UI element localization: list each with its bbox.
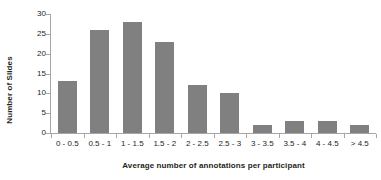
y-axis-tick-mark <box>46 113 50 114</box>
y-axis-tick-label: 20 <box>26 50 46 58</box>
x-axis-tick-mark <box>84 134 85 138</box>
y-axis-tick-mark <box>46 133 50 134</box>
y-axis-tick-mark <box>46 74 50 75</box>
y-axis-tick-label: 10 <box>26 89 46 97</box>
bar-chart: Number of Slides 051015202530 0 - 0.50.5… <box>0 0 381 180</box>
x-axis-tick-label: 2 - 2.5 <box>181 139 214 149</box>
x-axis-tick-mark <box>149 134 150 138</box>
bar <box>123 22 142 133</box>
y-axis-tick-mark <box>46 93 50 94</box>
x-axis-tick-label: 3.5 - 4 <box>279 139 312 149</box>
x-axis-tick-mark <box>311 134 312 138</box>
x-axis-tick-label: 0.5 - 1 <box>84 139 117 149</box>
x-axis-tick-label: 0 - 0.5 <box>51 139 84 149</box>
x-axis-title: Average number of annotations per partic… <box>51 160 376 171</box>
plot-area <box>51 14 376 133</box>
y-axis-tick-label: 25 <box>26 30 46 38</box>
x-axis-tick-mark <box>376 134 377 138</box>
bar <box>58 81 77 133</box>
bar <box>253 125 272 133</box>
y-axis-tick-label: 0 <box>26 129 46 137</box>
y-axis-tick-mark <box>46 54 50 55</box>
x-axis-tick-label: > 4.5 <box>344 139 377 149</box>
bar <box>220 93 239 133</box>
x-axis-tick-mark <box>214 134 215 138</box>
y-axis-tick-mark <box>46 34 50 35</box>
bar <box>350 125 369 133</box>
bar <box>318 121 337 133</box>
bar <box>285 121 304 133</box>
x-axis-tick-label: 1.5 - 2 <box>149 139 182 149</box>
y-axis-title: Number of Slides <box>3 0 17 180</box>
x-axis-tick-label: 1 - 1.5 <box>116 139 149 149</box>
x-axis-tick-mark <box>246 134 247 138</box>
y-axis-tick-label: 15 <box>26 70 46 78</box>
bar <box>90 30 109 133</box>
y-axis-tick-labels: 051015202530 <box>22 0 46 180</box>
x-axis-tick-label: 4 - 4.5 <box>311 139 344 149</box>
x-axis-tick-label: 2.5 - 3 <box>214 139 247 149</box>
y-axis-tick-label: 5 <box>26 109 46 117</box>
x-axis-tick-labels: 0 - 0.50.5 - 11 - 1.51.5 - 22 - 2.52.5 -… <box>51 139 376 151</box>
x-axis-tick-mark <box>116 134 117 138</box>
x-axis-tick-mark <box>279 134 280 138</box>
x-axis-tick-label: 3 - 3.5 <box>246 139 279 149</box>
bar <box>188 85 207 133</box>
x-axis-tick-mark <box>344 134 345 138</box>
y-axis-tick-mark <box>46 14 50 15</box>
y-axis-tick-label: 30 <box>26 10 46 18</box>
x-axis-tick-mark <box>51 134 52 138</box>
x-axis-tick-mark <box>181 134 182 138</box>
bar <box>155 42 174 133</box>
